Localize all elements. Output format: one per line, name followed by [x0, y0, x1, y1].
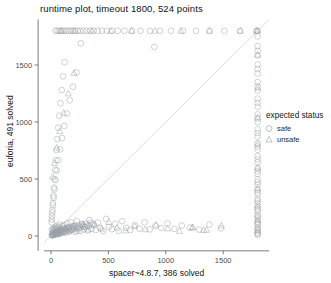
data-point-safe: [168, 28, 174, 34]
data-point-safe: [59, 87, 65, 93]
legend-triangle-icon: [266, 136, 272, 142]
data-point-safe: [67, 97, 73, 103]
legend-entry-unsafe[interactable]: unsafe: [266, 135, 300, 144]
legend-entry-safe[interactable]: safe: [266, 124, 291, 133]
data-point-safe: [255, 133, 261, 139]
diagonal-reference-line-layer: [44, 19, 269, 242]
y-tick-label: 500: [20, 175, 33, 184]
legend-layer: expected statussafeunsafe: [266, 111, 323, 144]
legend-circle-icon: [266, 126, 272, 132]
data-point-safe: [138, 28, 144, 34]
data-point-safe: [58, 100, 64, 106]
y-tick-label: 1000: [15, 118, 32, 127]
data-point-safe: [207, 222, 213, 228]
data-point-safe: [119, 218, 125, 224]
data-point-safe: [78, 40, 84, 46]
data-point-safe: [62, 59, 68, 65]
data-point-safe: [158, 225, 164, 231]
data-point-unsafe: [164, 225, 170, 231]
data-point-safe: [70, 84, 76, 90]
legend-title: expected status: [266, 111, 323, 120]
data-point-safe: [122, 28, 128, 34]
x-tick-label: 0: [49, 256, 53, 265]
x-tick-label: 1000: [157, 256, 174, 265]
data-point-safe: [115, 28, 121, 34]
x-tick-label: 1500: [215, 256, 232, 265]
axes-layer: 050010001500050010001500spacer~4.8.7, 38…: [5, 19, 269, 277]
data-point-unsafe: [65, 90, 71, 96]
data-point-safe: [151, 44, 157, 50]
y-axis-title: euforia, 491 solved: [5, 95, 15, 167]
y-tick-label: 1500: [15, 61, 32, 70]
data-point-safe: [172, 226, 178, 232]
data-point-safe: [255, 34, 261, 40]
identity-line: [44, 19, 269, 242]
data-point-safe: [142, 219, 148, 225]
plot-canvas: 050010001500050010001500spacer~4.8.7, 38…: [0, 0, 331, 283]
data-point-unsafe: [255, 164, 261, 170]
x-tick-label: 500: [102, 256, 115, 265]
data-point-safe: [255, 130, 261, 136]
legend-label: safe: [277, 124, 291, 133]
data-point-safe: [61, 123, 67, 129]
data-point-safe: [221, 28, 227, 34]
data-point-safe: [60, 74, 66, 80]
x-axis-title: spacer~4.8.7, 386 solved: [109, 268, 204, 278]
runtime-scatter-plot: runtime plot, timeout 1800, 524 points 0…: [0, 0, 331, 283]
data-point-safe: [116, 228, 122, 234]
y-tick-label: 0: [28, 232, 32, 241]
legend-label: unsafe: [277, 135, 300, 144]
data-point-unsafe: [114, 224, 120, 230]
data-point-safe: [255, 100, 261, 106]
data-point-safe: [193, 28, 199, 34]
